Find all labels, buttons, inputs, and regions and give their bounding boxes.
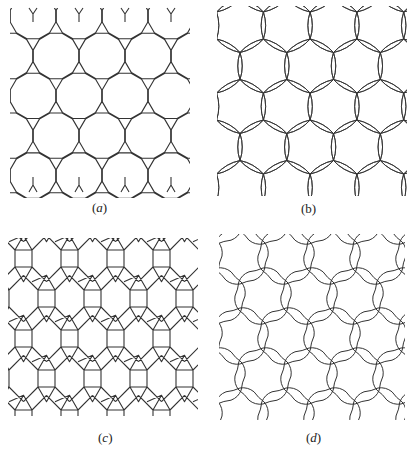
panel-label-b: (b)	[301, 201, 316, 217]
panel-label-c: (c)	[98, 430, 112, 446]
panel-b	[205, 0, 415, 200]
panel-d	[205, 228, 415, 426]
hex-square-triangle-tiling	[0, 228, 205, 426]
lens-edge-hexagonal-net	[205, 0, 415, 200]
panel-a	[0, 0, 205, 200]
panel-c	[0, 228, 205, 426]
panel-label-a: (a)	[92, 200, 107, 216]
panel-label-d: (d)	[306, 430, 321, 446]
truncated-hexagonal-tiling	[0, 0, 205, 200]
interlaced-arc-tiling	[205, 228, 415, 426]
